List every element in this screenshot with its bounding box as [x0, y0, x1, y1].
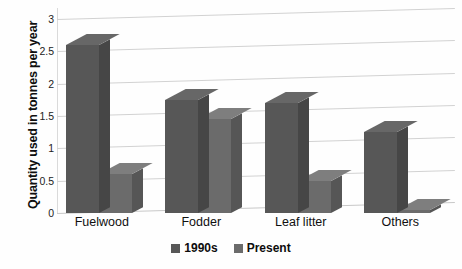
y-axis-tick-label: 3	[24, 13, 54, 25]
x-axis-label-fodder: Fodder	[181, 215, 221, 229]
bar-front-face	[66, 45, 99, 213]
x-axis-label-others: Others	[382, 215, 420, 229]
bar-top-face	[364, 121, 418, 132]
legend-label: 1990s	[184, 241, 217, 255]
bar-front-face	[165, 100, 198, 213]
y-axis-tick-labels: 00.511.522.53	[24, 0, 54, 269]
bar-top-face	[165, 89, 219, 100]
bar-side-face	[132, 168, 143, 213]
bar	[397, 210, 430, 213]
legend-label: Present	[247, 241, 291, 255]
bar-side-face	[198, 94, 209, 213]
y-axis-tick-label: 2.5	[24, 45, 54, 57]
legend-entry-1990s[interactable]: 1990s	[171, 241, 217, 255]
bar-side-face	[331, 175, 342, 213]
bar	[165, 100, 198, 213]
bar-side-face	[231, 113, 242, 213]
y-axis-tick-label: 2	[24, 78, 54, 90]
bar-front-face	[265, 103, 298, 213]
bar	[265, 103, 298, 213]
x-axis-label-leaf-litter: Leaf litter	[275, 215, 326, 229]
chart-legend: 1990sPresent	[0, 241, 462, 255]
bar	[364, 132, 397, 213]
x-axis-label-fuelwood: Fuelwood	[75, 215, 129, 229]
y-axis-tick-label: 1	[24, 142, 54, 154]
bar-chart: Quantity used in tonnes per year 00.511.…	[0, 0, 462, 269]
bar-front-face	[397, 210, 430, 213]
bar-side-face	[298, 97, 309, 213]
bar-side-face	[99, 39, 110, 213]
y-axis-tick-label: 0.5	[24, 175, 54, 187]
legend-entry-present[interactable]: Present	[234, 241, 291, 255]
bar-top-face	[265, 92, 319, 103]
x-axis-category-labels: FuelwoodFodderLeaf litterOthers	[57, 215, 455, 237]
bars-layer	[57, 8, 455, 213]
bar	[66, 45, 99, 213]
y-axis-tick-label: 1.5	[24, 110, 54, 122]
legend-swatch-icon	[234, 244, 243, 253]
bar-top-face	[66, 34, 120, 45]
bar-front-face	[364, 132, 397, 213]
bar-side-face	[397, 126, 408, 213]
legend-swatch-icon	[171, 244, 180, 253]
y-axis-tick-label: 0	[24, 207, 54, 219]
